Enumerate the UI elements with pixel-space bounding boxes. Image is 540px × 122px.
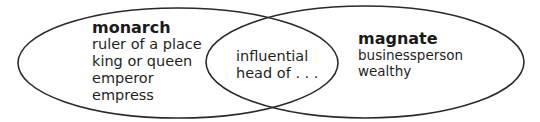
intersection-item: influential (236, 48, 318, 65)
right-set-title: magnate (358, 30, 463, 47)
intersection-item: head of . . . (236, 65, 318, 82)
left-set-item: ruler of a place (92, 36, 202, 53)
right-set-item: wealthy (358, 63, 463, 79)
left-set-item: king or queen (92, 53, 202, 70)
left-set-item: emperor (92, 70, 202, 87)
left-set-label: monarch ruler of a place king or queen e… (92, 19, 202, 104)
right-set-item: businessperson (358, 47, 463, 63)
intersection-label: influential head of . . . (236, 48, 318, 82)
left-set-item: empress (92, 87, 202, 104)
right-set-label: magnate businessperson wealthy (358, 30, 463, 79)
left-set-title: monarch (92, 19, 202, 36)
